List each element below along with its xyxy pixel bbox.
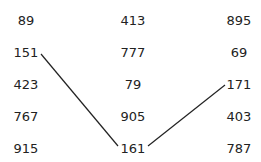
connection-lines	[0, 0, 261, 162]
connector-151-161	[41, 54, 118, 146]
connector-161-171	[148, 85, 225, 146]
